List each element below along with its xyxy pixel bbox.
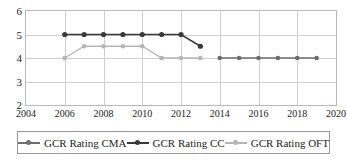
data-point [198, 56, 203, 61]
x-tick-label: 2014 [210, 108, 230, 119]
data-point [101, 44, 106, 49]
plot-area: 23456 2004200620082010201220142016201820… [25, 10, 337, 106]
data-point [120, 32, 125, 37]
series-layer [26, 11, 336, 105]
data-point [140, 44, 145, 49]
legend-label: GCR Rating CC [153, 137, 225, 149]
data-point [140, 32, 145, 37]
data-point [256, 56, 261, 61]
series-gcr-rating-oft [62, 44, 202, 60]
series-gcr-rating-cma [217, 56, 318, 61]
data-point [82, 44, 87, 49]
data-point [159, 32, 164, 37]
y-tick-label: 5 [17, 29, 23, 40]
legend-marker-icon [225, 138, 247, 147]
x-tick-label: 2010 [132, 108, 152, 119]
legend-marker-icon [18, 138, 40, 147]
data-point [62, 56, 67, 61]
x-tick-label: 2012 [171, 108, 191, 119]
legend-label: GCR Rating CMA [44, 137, 127, 149]
legend-marker-icon [127, 138, 149, 147]
plot-wrapper: 23456 2004200620082010201220142016201820… [0, 0, 347, 122]
chart-legend: GCR Rating CMAGCR Rating CCGCR Rating OF… [17, 131, 330, 154]
legend-item[interactable]: GCR Rating OFT [225, 137, 329, 149]
data-point [121, 44, 126, 49]
x-tick-label: 2018 [287, 108, 307, 119]
x-tick-label: 2020 [326, 108, 346, 119]
data-point [178, 32, 183, 37]
data-point [82, 32, 87, 37]
data-point [101, 32, 106, 37]
y-tick-label: 6 [17, 6, 23, 17]
data-point [314, 56, 319, 61]
data-point [198, 44, 203, 49]
legend-item[interactable]: GCR Rating CMA [18, 137, 127, 149]
data-point [295, 56, 300, 61]
data-point [179, 56, 184, 61]
data-point [237, 56, 242, 61]
legend-label: GCR Rating OFT [251, 137, 329, 149]
data-point [62, 32, 67, 37]
x-tick-label: 2016 [249, 108, 269, 119]
x-tick-label: 2008 [94, 108, 114, 119]
x-tick-label: 2004 [16, 108, 36, 119]
data-point [217, 56, 222, 61]
y-tick-label: 3 [17, 76, 23, 87]
line-chart: 23456 2004200620082010201220142016201820… [0, 0, 347, 162]
y-tick-label: 4 [17, 53, 23, 64]
legend-item[interactable]: GCR Rating CC [127, 137, 225, 149]
x-tick-label: 2006 [55, 108, 75, 119]
data-point [276, 56, 281, 61]
data-point [159, 56, 164, 61]
